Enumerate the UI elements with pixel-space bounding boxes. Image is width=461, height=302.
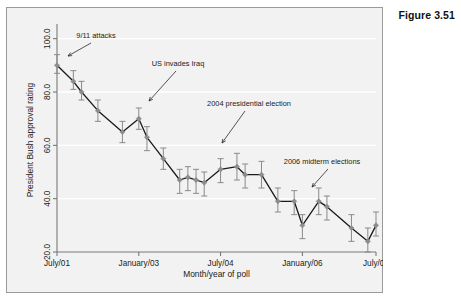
- data-point-marker: [292, 199, 297, 204]
- data-point-marker: [373, 223, 378, 228]
- x-tick-label: July/04: [208, 259, 234, 268]
- axis-titles: Month/year of pollPresident Bush approva…: [25, 82, 250, 279]
- annot-911-label: 9/11 attacks: [76, 31, 116, 40]
- y-axis-title: President Bush approval rating: [25, 82, 35, 197]
- annotations: 9/11 attacksUS invades Iraq2004 presiden…: [68, 31, 361, 187]
- annot-2004-label: 2004 presidential election: [207, 99, 291, 108]
- data-point-marker: [185, 175, 190, 180]
- tick-labels: 20.040.060.080.0100.0July/01January/03Ju…: [43, 28, 383, 268]
- y-tick-label: 40.0: [43, 190, 52, 206]
- figure-label: Figure 3.51: [398, 9, 455, 21]
- y-tick-label: 60.0: [43, 137, 52, 153]
- figure-root: Figure 3.51 20.040.060.080.0100.0July/01…: [0, 0, 461, 302]
- approval-rating-line-chart: 20.040.060.080.0100.0July/01January/03Ju…: [6, 7, 383, 293]
- annot-midterm-arrow-line: [312, 169, 328, 187]
- annot-iraq-label: US invades Iraq: [152, 59, 205, 68]
- axes: [53, 24, 376, 256]
- annot-911-arrow-line: [68, 43, 91, 56]
- annot-2004-arrow-line: [222, 111, 245, 143]
- x-tick-label: July/01: [44, 259, 70, 268]
- y-tick-label: 100.0: [43, 28, 52, 49]
- annot-iraq-arrow-line: [149, 71, 176, 101]
- y-tick-label: 20.0: [43, 244, 52, 260]
- data-point-marker: [193, 177, 198, 182]
- x-tick-label: January/06: [282, 259, 323, 268]
- data-markers: [54, 63, 378, 244]
- x-tick-label: January/03: [119, 259, 160, 268]
- x-tick-label: July/07: [363, 259, 383, 268]
- annot-midterm-label: 2006 midterm elections: [284, 157, 361, 166]
- y-tick-label: 80.0: [43, 84, 52, 100]
- x-axis-title: Month/year of poll: [183, 269, 250, 279]
- error-bars: [54, 55, 379, 252]
